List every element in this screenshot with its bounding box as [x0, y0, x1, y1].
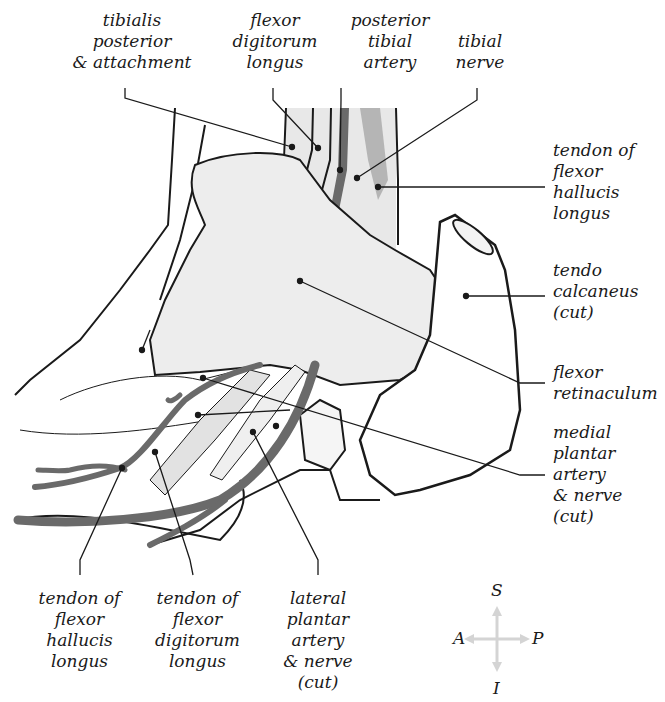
label-line: lateral: [268, 588, 368, 609]
label-line: & attachment: [62, 52, 202, 73]
label-line: (cut): [553, 506, 622, 527]
label-line: plantar: [268, 609, 368, 630]
label-line: flexor: [140, 609, 255, 630]
label-line: flexor: [225, 10, 325, 31]
label-line: (cut): [553, 302, 638, 323]
label-line: digitorum: [140, 630, 255, 651]
label-line: digitorum: [225, 31, 325, 52]
label-line: flexor: [553, 362, 658, 383]
compass-arrows: [464, 606, 530, 672]
label-line: hallucis: [22, 630, 137, 651]
label-line: artery: [268, 630, 368, 651]
compass-superior: S: [491, 580, 503, 600]
label-flexor-retinaculum: flexor retinaculum: [553, 362, 658, 404]
compass-inferior: I: [493, 678, 500, 698]
label-posterior-tibial-artery: posterior tibial artery: [340, 10, 440, 73]
label-line: plantar: [553, 443, 622, 464]
label-tendon-flexor-hallucis-longus-bottom: tendon of flexor hallucis longus: [22, 588, 137, 672]
label-lateral-plantar-artery-nerve: lateral plantar artery & nerve (cut): [268, 588, 368, 693]
label-line: hallucis: [553, 182, 635, 203]
compass-posterior: P: [532, 628, 543, 648]
label-line: medial: [553, 422, 622, 443]
label-line: posterior: [340, 10, 440, 31]
label-line: longus: [22, 651, 137, 672]
label-line: retinaculum: [553, 383, 658, 404]
label-line: posterior: [62, 31, 202, 52]
label-line: tendo: [553, 260, 638, 281]
label-tendo-calcaneus: tendo calcaneus (cut): [553, 260, 638, 323]
label-line: artery: [553, 464, 622, 485]
label-line: flexor: [22, 609, 137, 630]
label-line: artery: [340, 52, 440, 73]
label-line: longus: [553, 203, 635, 224]
label-flexor-digitorum-longus-top: flexor digitorum longus: [225, 10, 325, 73]
flexor-retinaculum-shape: [150, 153, 440, 385]
label-line: (cut): [268, 672, 368, 693]
label-line: tendon of: [22, 588, 137, 609]
label-tibial-nerve: tibial nerve: [445, 31, 515, 73]
label-line: tendon of: [553, 140, 635, 161]
label-tendon-flexor-digitorum-longus-bottom: tendon of flexor digitorum longus: [140, 588, 255, 672]
label-line: & nerve: [553, 485, 622, 506]
label-line: tendon of: [140, 588, 255, 609]
label-line: nerve: [445, 52, 515, 73]
label-line: longus: [225, 52, 325, 73]
label-line: longus: [140, 651, 255, 672]
label-tendon-flexor-hallucis-longus-right: tendon of flexor hallucis longus: [553, 140, 635, 224]
label-medial-plantar-artery-nerve: medial plantar artery & nerve (cut): [553, 422, 622, 527]
label-line: & nerve: [268, 651, 368, 672]
label-line: tibialis: [62, 10, 202, 31]
compass-anterior: A: [453, 628, 465, 648]
label-line: calcaneus: [553, 281, 638, 302]
label-tibialis-posterior: tibialis posterior & attachment: [62, 10, 202, 73]
label-line: flexor: [553, 161, 635, 182]
label-line: tibial: [340, 31, 440, 52]
label-line: tibial: [445, 31, 515, 52]
